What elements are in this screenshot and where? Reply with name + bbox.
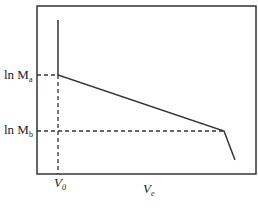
curve — [58, 20, 235, 160]
ln-ma-label: ln Ma — [4, 67, 33, 84]
diagram: ln Ma ln Mb V0 Ve — [0, 0, 258, 208]
v0-label: V0 — [54, 175, 66, 192]
ln-mb-label: ln Mb — [4, 122, 33, 139]
ve-label: Ve — [143, 181, 155, 198]
plot-frame — [37, 6, 256, 174]
